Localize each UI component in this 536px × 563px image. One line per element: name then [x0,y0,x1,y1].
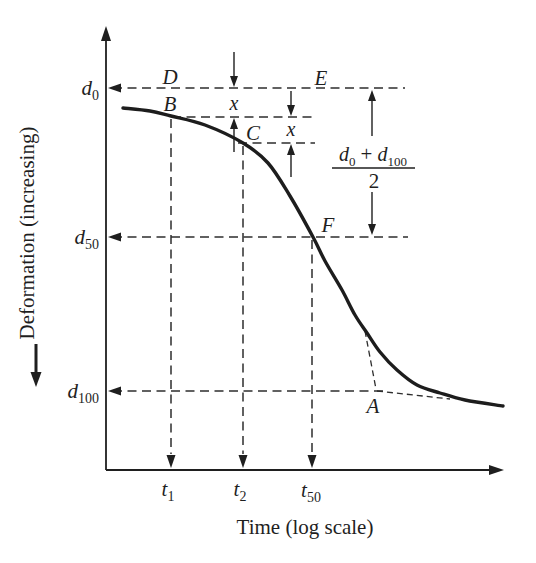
time-deformation-curve [123,108,503,406]
d0-label: d0 [82,76,100,103]
guide-down-arrowhead [167,455,176,468]
point-A-label: A [365,394,380,418]
d50-label: d50 [75,225,100,252]
guide-left-arrowhead [108,233,121,242]
figure-canvas: d0 d50 d100 t1 t2 t50 D B E C F A x x d0… [0,0,536,563]
d100-label: d100 [68,379,100,406]
dimension-arrowhead [230,76,238,87]
deformation-direction-arrowhead [31,372,42,387]
d50-formula-denominator: 2 [369,169,380,193]
t50-label: t50 [301,478,321,505]
point-F-label: F [321,213,335,237]
figure: d0 d50 d100 t1 t2 t50 D B E C F A x x d0… [0,0,536,563]
point-E-label: E [314,66,328,90]
x-axis-title: Time (log scale) [237,515,374,539]
offset-x2-label: x [286,118,296,140]
y-axis-title: Deformation (increasing) [15,127,39,340]
point-D-label: D [161,65,177,89]
x-axis-arrowhead [489,465,504,475]
offset-x1-label: x [229,92,239,114]
y-axis-arrowhead [101,26,111,41]
guide-down-arrowhead [308,455,317,468]
axes [31,26,505,475]
point-C-label: C [246,121,261,145]
guide-left-arrowhead [108,84,121,93]
d50-formula-numerator: d0+d100 [339,142,407,169]
point-B-label: B [164,92,177,116]
dimension-arrowhead [368,224,376,235]
guide-left-arrowhead [108,387,121,396]
t1-label: t1 [162,477,175,504]
dimension-arrowhead [287,144,295,155]
t2-label: t2 [234,477,247,504]
dimension-arrowhead [287,105,295,116]
construction-lines [108,84,450,469]
dimension-arrowhead [230,118,238,129]
dimension-arrowhead [368,90,376,101]
guide-down-arrowhead [239,455,248,468]
deformation-curve [123,108,503,406]
